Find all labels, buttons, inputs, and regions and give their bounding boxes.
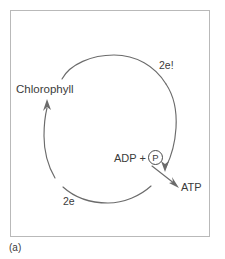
electrons-top-label: 2e! <box>159 60 174 71</box>
figure-frame <box>10 10 210 237</box>
figure-caption: (a) <box>9 242 21 253</box>
adp-label: ADP + <box>114 152 146 164</box>
electrons-bottom-label: 2e <box>63 196 75 207</box>
phosphate-circle-label: P <box>148 150 163 165</box>
atp-label: ATP <box>181 182 202 193</box>
chlorophyll-label: Chlorophyll <box>16 84 74 96</box>
adp-phosphate-group: ADP + P <box>114 150 163 165</box>
figure-container: Chlorophyll 2e! 2e ADP + P ATP (a) <box>0 0 225 259</box>
